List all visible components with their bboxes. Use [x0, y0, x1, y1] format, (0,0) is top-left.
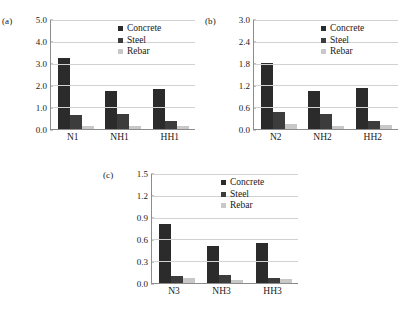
legend-item: Concrete — [321, 24, 364, 34]
bar-rebar — [285, 124, 297, 129]
chart-panel-a: (a) 5.04.03.02.01.00.0 N1NH1HH1 Concrete… — [0, 6, 203, 158]
bar-group — [58, 20, 94, 129]
gridline — [51, 20, 195, 21]
legend-swatch-rebar-icon — [118, 49, 123, 54]
x-tick-label: N1 — [67, 132, 79, 142]
y-tick-label: 0.0 — [239, 126, 250, 135]
bar-steel — [70, 115, 82, 129]
legend-swatch-concrete-icon — [118, 26, 123, 31]
legend-swatch-steel-icon — [321, 38, 326, 43]
chart-panel-c: (c) 1.51.20.90.60.30.0 N3NH3HH3 Concrete… — [101, 160, 306, 312]
gridline — [254, 85, 398, 86]
x-tick-label: HH2 — [364, 132, 382, 142]
bar-rebar — [183, 278, 195, 283]
x-tick-label: NH1 — [110, 132, 128, 142]
legend-item: Steel — [221, 190, 264, 200]
bar-steel — [320, 114, 332, 129]
y-axis-a: 5.04.03.02.01.00.0 — [22, 20, 50, 130]
panel-label-b: (b) — [205, 16, 216, 26]
x-tick-label: NH3 — [212, 286, 230, 296]
legend-a: ConcreteSteelRebar — [118, 24, 161, 57]
bar-rebar — [82, 126, 94, 129]
bar-rebar — [380, 125, 392, 129]
legend-swatch-rebar-icon — [221, 203, 226, 208]
legend-label: Steel — [230, 190, 249, 200]
bar-concrete — [356, 88, 368, 129]
bar-steel — [165, 121, 177, 129]
gridline — [254, 20, 398, 21]
x-tick-label: HH3 — [263, 286, 281, 296]
x-axis-labels-a: N1NH1HH1 — [51, 132, 195, 142]
legend-label: Rebar — [230, 201, 253, 211]
legend-item: Rebar — [221, 201, 264, 211]
y-axis-c: 1.51.20.90.60.30.0 — [123, 174, 151, 284]
gridline — [254, 64, 398, 65]
legend-swatch-concrete-icon — [221, 180, 226, 185]
x-axis-labels-c: N3NH3HH3 — [152, 286, 298, 296]
x-tick-label: NH2 — [313, 132, 331, 142]
x-tick-label: N2 — [270, 132, 282, 142]
legend-item: Steel — [118, 36, 161, 46]
legend-label: Concrete — [127, 24, 161, 34]
gridline — [51, 64, 195, 65]
bar-concrete — [261, 63, 273, 129]
legend-label: Rebar — [127, 47, 150, 57]
y-tick-label: 3.0 — [36, 60, 47, 69]
bar-rebar — [177, 126, 189, 129]
y-tick-label: 5.0 — [36, 16, 47, 25]
bar-steel — [219, 275, 231, 283]
legend-swatch-steel-icon — [221, 192, 226, 197]
legend-b: ConcreteSteelRebar — [321, 24, 364, 57]
gridline — [152, 218, 298, 219]
legend-item: Concrete — [118, 24, 161, 34]
legend-label: Concrete — [230, 178, 264, 188]
y-tick-label: 1.0 — [36, 104, 47, 113]
gridline — [152, 174, 298, 175]
x-axis-labels-b: N2NH2HH2 — [254, 132, 398, 142]
bar-rebar — [129, 126, 141, 129]
bar-concrete — [308, 91, 320, 130]
bar-steel — [368, 121, 380, 129]
y-tick-label: 0.6 — [239, 104, 250, 113]
y-tick-label: 0.0 — [36, 126, 47, 135]
legend-label: Concrete — [330, 24, 364, 34]
bar-steel — [117, 114, 129, 129]
y-tick-label: 4.0 — [36, 38, 47, 47]
y-tick-label: 0.6 — [137, 236, 148, 245]
legend-label: Steel — [330, 36, 349, 46]
bar-concrete — [159, 224, 171, 283]
y-tick-label: 1.2 — [137, 192, 148, 201]
gridline — [51, 85, 195, 86]
bar-concrete — [58, 58, 70, 129]
bar-concrete — [105, 91, 117, 129]
bar-concrete — [256, 243, 268, 283]
y-tick-label: 0.9 — [137, 214, 148, 223]
y-tick-label: 3.0 — [239, 16, 250, 25]
bar-steel — [268, 278, 280, 283]
gridline — [254, 107, 398, 108]
bar-rebar — [231, 280, 243, 283]
x-tick-label: N3 — [168, 286, 180, 296]
x-tick-label: HH1 — [161, 132, 179, 142]
bar-steel — [171, 276, 183, 283]
bar-concrete — [207, 246, 219, 283]
y-tick-label: 1.2 — [239, 82, 250, 91]
legend-swatch-rebar-icon — [321, 49, 326, 54]
gridline — [152, 239, 298, 240]
legend-item: Rebar — [321, 47, 364, 57]
chart-panel-b: (b) 3.02.41.81.20.60.0 N2NH2HH2 Concrete… — [203, 6, 406, 158]
y-tick-label: 2.0 — [36, 82, 47, 91]
y-tick-label: 1.5 — [137, 170, 148, 179]
bar-group — [159, 174, 195, 283]
legend-label: Rebar — [330, 47, 353, 57]
legend-item: Steel — [321, 36, 364, 46]
legend-swatch-steel-icon — [118, 38, 123, 43]
y-tick-label: 0.3 — [137, 258, 148, 267]
bar-steel — [273, 112, 285, 129]
bar-concrete — [153, 89, 165, 129]
bar-rebar — [332, 126, 344, 129]
y-tick-label: 0.0 — [137, 280, 148, 289]
y-axis-b: 3.02.41.81.20.60.0 — [225, 20, 253, 130]
legend-swatch-concrete-icon — [321, 26, 326, 31]
legend-c: ConcreteSteelRebar — [221, 178, 264, 211]
